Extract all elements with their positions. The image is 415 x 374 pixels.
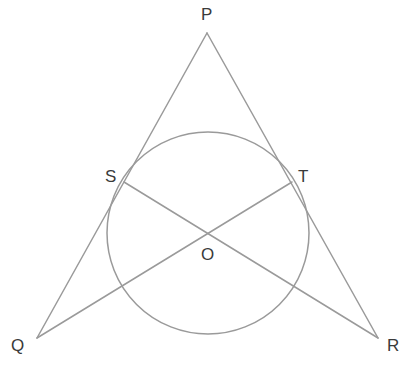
point-label-q: Q [11, 337, 24, 354]
point-label-s: S [105, 168, 116, 185]
segment-pr [207, 33, 378, 338]
segment-pq [37, 33, 207, 338]
segment-sr [124, 182, 378, 338]
segment-tq [37, 182, 292, 338]
point-label-p: P [201, 6, 212, 23]
point-label-r: R [387, 337, 399, 354]
segments-group [37, 33, 378, 338]
geometry-canvas [0, 0, 415, 374]
point-label-t: T [298, 168, 308, 185]
point-label-o: O [201, 246, 214, 263]
geometry-figure: P Q R S T O [0, 0, 415, 374]
